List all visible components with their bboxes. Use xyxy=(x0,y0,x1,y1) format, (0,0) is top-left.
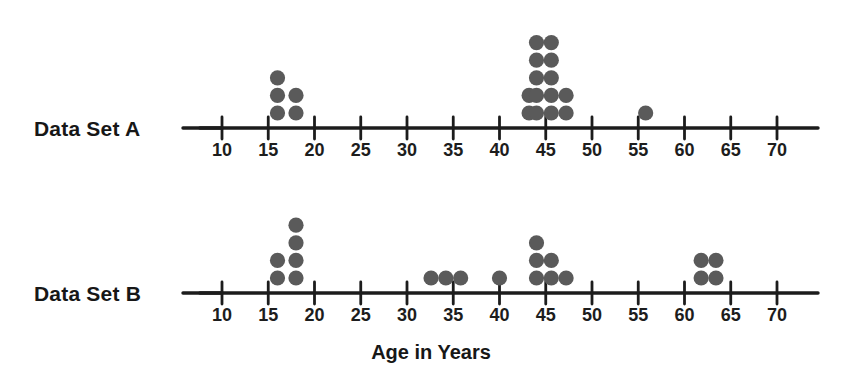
axis-tick-label-data-set-b-65: 65 xyxy=(721,305,741,325)
data-dot xyxy=(638,105,653,120)
axis-tick-label-data-set-b-20: 20 xyxy=(304,305,324,325)
axis-tick-label-data-set-b-10: 10 xyxy=(212,305,232,325)
data-dot xyxy=(270,88,285,103)
dot-plot-canvas: 1015202530354045505560657010152025303540… xyxy=(0,0,862,385)
axis-tick-label-data-set-b-25: 25 xyxy=(351,305,371,325)
data-dot xyxy=(270,105,285,120)
data-dot xyxy=(529,53,544,68)
data-dot xyxy=(694,270,709,285)
data-dot xyxy=(438,270,453,285)
axis-tick-label-data-set-b-60: 60 xyxy=(674,305,694,325)
axis-tick-label-data-set-a-65: 65 xyxy=(721,140,741,160)
data-dot xyxy=(529,253,544,268)
data-dot xyxy=(544,35,559,50)
axis-tick-label-data-set-b-70: 70 xyxy=(767,305,787,325)
data-dot xyxy=(559,88,574,103)
axis-tick-label-data-set-a-40: 40 xyxy=(489,140,509,160)
data-dot xyxy=(288,253,303,268)
data-dot xyxy=(544,270,559,285)
data-dot xyxy=(529,270,544,285)
data-dot xyxy=(288,270,303,285)
axis-tick-label-data-set-b-45: 45 xyxy=(536,305,556,325)
axis-tick-label-data-set-a-30: 30 xyxy=(397,140,417,160)
data-dot xyxy=(544,88,559,103)
data-dot xyxy=(492,270,507,285)
data-dot xyxy=(270,70,285,85)
axis-tick-label-data-set-b-30: 30 xyxy=(397,305,417,325)
data-dot xyxy=(529,70,544,85)
axis-tick-label-data-set-a-15: 15 xyxy=(258,140,278,160)
data-dot xyxy=(559,270,574,285)
axis-tick-label-data-set-b-15: 15 xyxy=(258,305,278,325)
plot-group-data-set-a: 10152025303540455055606570 xyxy=(183,35,818,160)
data-dot xyxy=(288,88,303,103)
axis-tick-label-data-set-a-20: 20 xyxy=(304,140,324,160)
data-dot xyxy=(270,270,285,285)
data-dot xyxy=(529,35,544,50)
data-dot xyxy=(708,253,723,268)
axis-tick-label-data-set-a-25: 25 xyxy=(351,140,371,160)
axis-tick-label-data-set-b-40: 40 xyxy=(489,305,509,325)
data-dot xyxy=(529,105,544,120)
data-dot xyxy=(453,270,468,285)
data-dot xyxy=(708,270,723,285)
axis-tick-label-data-set-b-35: 35 xyxy=(443,305,463,325)
data-dot xyxy=(544,105,559,120)
axis-tick-label-data-set-b-55: 55 xyxy=(628,305,648,325)
axis-tick-label-data-set-b-50: 50 xyxy=(582,305,602,325)
axis-tick-label-data-set-a-55: 55 xyxy=(628,140,648,160)
axis-tick-label-data-set-a-50: 50 xyxy=(582,140,602,160)
data-dot xyxy=(544,70,559,85)
data-dot xyxy=(270,253,285,268)
axis-tick-label-data-set-a-45: 45 xyxy=(536,140,556,160)
data-dot xyxy=(529,235,544,250)
axis-tick-label-data-set-a-35: 35 xyxy=(443,140,463,160)
data-dot xyxy=(288,235,303,250)
axis-tick-label-data-set-a-60: 60 xyxy=(674,140,694,160)
data-dot xyxy=(694,253,709,268)
data-dot xyxy=(559,105,574,120)
data-dot xyxy=(288,105,303,120)
axis-tick-label-data-set-a-10: 10 xyxy=(212,140,232,160)
data-dot xyxy=(544,53,559,68)
data-dot xyxy=(544,253,559,268)
axis-tick-label-data-set-a-70: 70 xyxy=(767,140,787,160)
plot-group-data-set-b: 10152025303540455055606570 xyxy=(183,218,818,325)
data-dot xyxy=(288,218,303,233)
x-axis-title: Age in Years xyxy=(0,341,862,364)
data-dot xyxy=(529,88,544,103)
data-dot xyxy=(423,270,438,285)
dot-plot-figure: Data Set A Data Set B 101520253035404550… xyxy=(0,0,862,385)
